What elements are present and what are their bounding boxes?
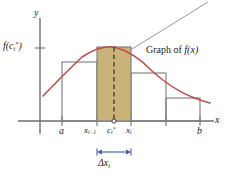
graph-caption-fx: f(x) [184,44,198,55]
x-tick-label-x-prev: xi−1 [84,126,96,136]
c-star-sup: * [113,126,116,132]
x-tick-label-x-curr: xi [126,126,132,136]
x-curr-sub: i [130,129,132,135]
delta-x-sub: i [108,162,110,169]
graph-caption-lead: Graph of [146,44,184,55]
graph-caption: Graph of f(x) [146,45,198,55]
x-prev-sub: i−1 [88,129,96,135]
x-tick-label-c-star: ci* [107,126,115,136]
delta-x-arrow [97,149,131,156]
riemann-sum-figure: y x f(ci*) a xi−1 ci* xi b Δxi Graph of … [0,0,228,177]
y-value-lead: f(c [3,40,14,51]
y-axis-label: y [34,8,38,18]
figure-canvas [0,0,228,177]
x-axis-label: x [215,115,219,125]
x-tick-label-a: a [59,126,64,136]
y-value-tail: ) [18,40,21,51]
riemann-rect-4 [166,98,200,121]
delta-x-base: Δx [98,157,108,168]
c-star-point-marker [112,119,116,123]
x-tick-label-b: b [197,126,202,136]
y-value-label: f(ci*) [3,41,22,52]
riemann-rect-3 [131,73,166,121]
delta-x-label: Δxi [98,158,110,169]
